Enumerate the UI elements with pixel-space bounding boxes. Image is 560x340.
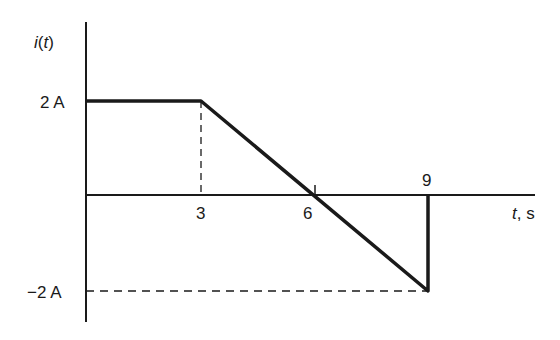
y-tick-neg2a: −2 A	[27, 283, 62, 302]
x-tick-6: 6	[303, 204, 312, 223]
x-tick-9: 9	[422, 171, 431, 190]
y-axis-label: i(t)	[34, 33, 54, 52]
y-tick-2a: 2 A	[40, 93, 65, 112]
x-axis-label: t, s	[512, 204, 535, 223]
current-waveform-diagram: i(t) 2 A −2 A 3 6 9 t, s	[0, 0, 560, 340]
x-tick-3: 3	[196, 204, 205, 223]
